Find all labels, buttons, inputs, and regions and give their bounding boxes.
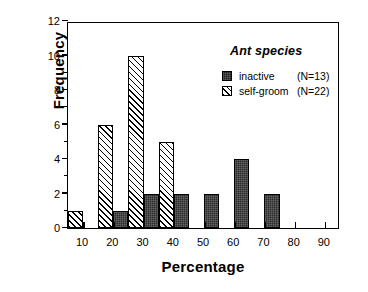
legend-swatch-self-groom xyxy=(222,86,232,96)
x-tick-label-40: 40 xyxy=(158,236,188,248)
y-tick-12 xyxy=(62,20,68,22)
x-axis-title: Percentage xyxy=(67,258,339,275)
y-tick-minor-7 xyxy=(64,106,68,107)
y-tick-minor-3 xyxy=(64,175,68,176)
bar-self-groom-10 xyxy=(68,211,83,228)
legend: Ant species inactive(N=13)self-groom(N=2… xyxy=(222,44,347,99)
x-tick-label-50: 50 xyxy=(188,236,218,248)
bar-inactive-50 xyxy=(204,194,219,229)
legend-count-self-groom: (N=22) xyxy=(297,85,329,97)
y-tick-8 xyxy=(62,89,68,91)
bar-inactive-70 xyxy=(264,194,279,229)
x-tick-label-10: 10 xyxy=(67,236,97,248)
legend-label-self-groom: self-groom xyxy=(239,85,297,97)
x-tick-60 xyxy=(234,222,236,228)
y-tick-10 xyxy=(62,54,68,56)
legend-title: Ant species xyxy=(222,44,347,58)
y-tick-label-0: 0 xyxy=(32,222,60,234)
x-tick-label-70: 70 xyxy=(248,236,278,248)
legend-rows: inactive(N=13)self-groom(N=22) xyxy=(222,69,347,97)
y-tick-minor-9 xyxy=(64,72,68,73)
legend-count-inactive: (N=13) xyxy=(297,70,329,82)
legend-label-inactive: inactive xyxy=(239,70,297,82)
x-tick-20 xyxy=(113,222,115,228)
y-tick-minor-5 xyxy=(64,141,68,142)
x-tick-label-80: 80 xyxy=(279,236,309,248)
y-tick-label-10: 10 xyxy=(32,50,60,62)
x-tick-label-90: 90 xyxy=(309,236,339,248)
x-tick-label-20: 20 xyxy=(97,236,127,248)
y-tick-label-12: 12 xyxy=(32,15,60,27)
y-tick-label-8: 8 xyxy=(32,84,60,96)
y-tick-0 xyxy=(62,227,68,229)
y-tick-label-4: 4 xyxy=(32,153,60,165)
y-tick-4 xyxy=(62,158,68,160)
x-tick-label-30: 30 xyxy=(128,236,158,248)
x-tick-40 xyxy=(174,222,176,228)
bar-inactive-30 xyxy=(144,194,159,229)
x-tick-70 xyxy=(264,222,266,228)
y-tick-2 xyxy=(62,192,68,194)
figure-histogram: Frequency Percentage 024681012 102030405… xyxy=(0,0,368,292)
y-tick-minor-1 xyxy=(64,210,68,211)
y-tick-label-6: 6 xyxy=(32,119,60,131)
bar-inactive-60 xyxy=(234,159,249,228)
bar-inactive-20 xyxy=(113,211,128,228)
x-tick-50 xyxy=(204,222,206,228)
y-axis-title: Frequency xyxy=(50,11,67,131)
bar-inactive-40 xyxy=(174,194,189,229)
x-tick-90 xyxy=(325,222,327,228)
x-tick-label-60: 60 xyxy=(218,236,248,248)
x-tick-10 xyxy=(83,222,85,228)
legend-row-inactive: inactive(N=13) xyxy=(222,69,347,82)
legend-row-self-groom: self-groom(N=22) xyxy=(222,84,347,97)
y-tick-minor-11 xyxy=(64,37,68,38)
x-tick-80 xyxy=(295,222,297,228)
bar-self-groom-20 xyxy=(98,125,113,229)
bar-self-groom-30 xyxy=(128,56,143,229)
y-tick-label-2: 2 xyxy=(32,188,60,200)
bar-self-groom-40 xyxy=(159,142,174,228)
x-tick-30 xyxy=(144,222,146,228)
y-tick-6 xyxy=(62,123,68,125)
legend-swatch-inactive xyxy=(222,71,232,81)
